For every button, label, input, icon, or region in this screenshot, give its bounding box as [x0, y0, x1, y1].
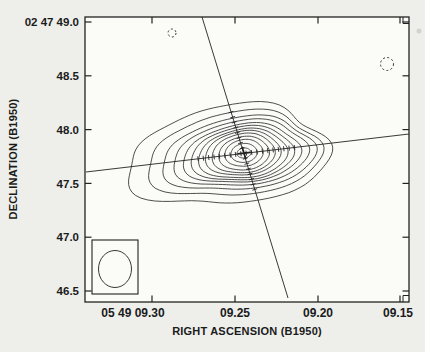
- line-hatch-mark: [289, 146, 290, 151]
- y-tick-label: 02 47 49.0: [25, 16, 79, 28]
- y-axis-title: DECLINATION (B1950): [7, 17, 23, 302]
- x-axis-title: RIGHT ASCENSION (B1950): [85, 325, 409, 337]
- line-hatch-mark: [278, 147, 279, 152]
- x-tick-label: 09.15: [383, 306, 413, 320]
- radio-contour-map-figure: 05 49 09.3009.2509.2009.1502 47 49.048.5…: [0, 0, 425, 352]
- x-tick-label: 09.25: [220, 306, 250, 320]
- line-hatch-mark: [208, 155, 209, 160]
- line-hatch-mark: [273, 148, 274, 153]
- y-tick-label: 47.0: [57, 231, 79, 243]
- y-tick-label: 48.0: [57, 124, 79, 136]
- scan-artifact: [417, 29, 422, 34]
- y-tick-label: 46.5: [57, 285, 80, 297]
- line-hatch-mark: [284, 146, 285, 151]
- line-hatch-mark: [230, 153, 231, 158]
- y-tick-label: 47.5: [57, 178, 80, 190]
- x-tick-label: 05 49 09.30: [101, 306, 165, 320]
- line-hatch-mark: [214, 154, 215, 159]
- plot-canvas: 05 49 09.3009.2509.2009.1502 47 49.048.5…: [0, 0, 425, 352]
- line-hatch-mark: [203, 156, 204, 161]
- line-hatch-mark: [198, 156, 199, 161]
- y-tick-label: 48.5: [57, 70, 80, 82]
- line-hatch-mark: [267, 148, 268, 153]
- line-hatch-mark: [235, 152, 236, 157]
- x-tick-label: 09.20: [303, 306, 333, 320]
- plot-frame: [85, 17, 409, 302]
- line-hatch-mark: [251, 150, 252, 155]
